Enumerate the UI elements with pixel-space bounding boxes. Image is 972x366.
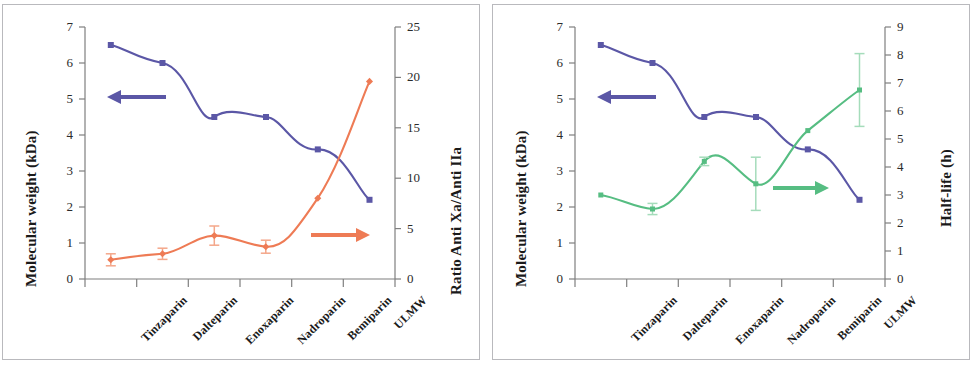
data-point (263, 114, 269, 120)
right-tick-label: 9 (897, 19, 923, 35)
right-tick-label: 6 (897, 103, 923, 119)
data-point (857, 88, 862, 93)
data-point (805, 128, 810, 133)
left-tick-label: 2 (51, 199, 73, 215)
right-axis-arrow-annotation (773, 181, 829, 195)
data-point (108, 42, 114, 48)
left-tick-label: 5 (51, 91, 73, 107)
left-tick-label: 6 (51, 55, 73, 71)
right-tick-label: 10 (407, 170, 433, 186)
data-point (211, 232, 218, 239)
left-tick-label: 6 (541, 55, 563, 71)
right-tick-label: 0 (897, 271, 923, 287)
left-axis-arrow-annotation (107, 90, 166, 104)
right-tick-label: 1 (897, 243, 923, 259)
right-tick-label: 7 (897, 75, 923, 91)
left-tick-label: 0 (51, 271, 73, 287)
right-tick-label: 5 (407, 221, 433, 237)
left-tick-label: 4 (541, 127, 563, 143)
right-tick-label: 15 (407, 120, 433, 136)
data-point (598, 193, 603, 198)
chart-panel-left: Molecular weight (kDa) Ratio Anti Xa/Ant… (2, 4, 480, 360)
left-tick-label: 1 (541, 235, 563, 251)
series-ratio-anti-xa-iia (106, 78, 373, 266)
data-point (650, 60, 656, 66)
data-point (650, 207, 655, 212)
data-point (367, 197, 373, 203)
series-molecular-weight-right (598, 42, 863, 203)
left-tick-label: 4 (51, 127, 73, 143)
right-tick-label: 3 (897, 187, 923, 203)
left-tick-label: 1 (51, 235, 73, 251)
data-point (160, 60, 166, 66)
data-point (366, 78, 373, 85)
left-tick-label: 3 (51, 163, 73, 179)
series-molecular-weight-left (108, 42, 373, 203)
data-point (701, 114, 707, 120)
data-point (857, 197, 863, 203)
data-point (598, 42, 604, 48)
data-point (262, 243, 269, 250)
right-axis-arrow-annotation (311, 228, 370, 242)
chart-panel-right: Molecular weight (kDa) Half-life (h) (492, 4, 970, 360)
data-point (753, 114, 759, 120)
data-point (805, 146, 811, 152)
left-tick-label: 3 (541, 163, 563, 179)
right-tick-label: 8 (897, 47, 923, 63)
left-tick-label: 7 (541, 19, 563, 35)
data-point (107, 256, 114, 263)
right-tick-label: 4 (897, 159, 923, 175)
left-axis-arrow-annotation (597, 90, 656, 104)
left-tick-label: 5 (541, 91, 563, 107)
right-tick-label: 5 (897, 131, 923, 147)
right-tick-label: 20 (407, 69, 433, 85)
left-tick-label: 0 (541, 271, 563, 287)
data-point (211, 114, 217, 120)
left-tick-label: 7 (51, 19, 73, 35)
right-tick-label: 25 (407, 19, 433, 35)
right-tick-label: 0 (407, 271, 433, 287)
figure-root: Molecular weight (kDa) Ratio Anti Xa/Ant… (0, 0, 972, 366)
right-tick-label: 2 (897, 215, 923, 231)
data-point (753, 181, 758, 186)
data-point (159, 250, 166, 257)
data-point (315, 146, 321, 152)
left-tick-label: 2 (541, 199, 563, 215)
series-half-life (598, 54, 864, 215)
data-point (702, 159, 707, 164)
